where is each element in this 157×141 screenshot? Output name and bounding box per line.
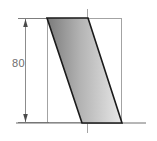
dimension-arrow-top	[23, 19, 28, 27]
height-dimension-label: 80	[12, 58, 25, 69]
technical-drawing-canvas: 80	[0, 0, 157, 141]
drawing-svg	[0, 0, 157, 141]
slanted-parallelogram	[47, 18, 122, 123]
dimension-arrow-bottom	[23, 114, 28, 122]
